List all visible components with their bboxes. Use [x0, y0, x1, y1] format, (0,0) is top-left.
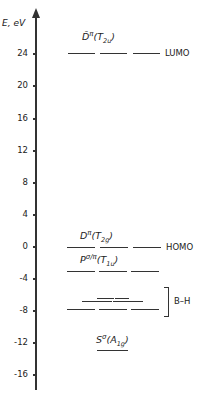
axis-tick-label: 12 — [0, 145, 28, 155]
homo-level-2 — [100, 247, 128, 248]
axis-tick-label: -16 — [0, 369, 28, 379]
homo-sym-close: ) — [109, 230, 113, 241]
axis-tick — [33, 53, 37, 55]
lumo-side-label: LUMO — [165, 48, 190, 58]
lumo-sym-close: ) — [111, 31, 115, 42]
lumo-term-label: D̄π(T2u) — [82, 30, 115, 45]
axis-tick — [33, 214, 37, 216]
s-level — [97, 350, 128, 351]
bh-mid-level-2 — [113, 301, 143, 302]
homo-level-3 — [133, 247, 161, 248]
axis-tick — [33, 246, 37, 248]
energy-axis — [35, 16, 37, 390]
bh-low-level-3 — [131, 309, 159, 310]
homo-side-label: HOMO — [166, 242, 193, 252]
axis-tick — [33, 182, 37, 184]
s-sub: 1g — [117, 340, 125, 348]
homo-level-1 — [67, 247, 95, 248]
axis-tick — [33, 342, 37, 344]
axis-tick-label: 0 — [0, 241, 28, 251]
lumo-level-2 — [100, 53, 127, 54]
bh-bracket — [164, 287, 169, 317]
axis-tick — [33, 310, 37, 312]
s-sym-close: ) — [125, 334, 129, 345]
bh-low-level-1 — [67, 309, 95, 310]
axis-tick-label: 24 — [0, 48, 28, 58]
axis-tick — [33, 374, 37, 376]
lumo-sym-open: (T — [94, 31, 104, 42]
lumo-level-1 — [68, 53, 95, 54]
bh-top-level-2 — [115, 298, 129, 299]
axis-tick-label: -12 — [0, 337, 28, 347]
bh-top-level-1 — [97, 298, 114, 299]
homo-sym-open: (T — [92, 230, 102, 241]
axis-tick-label: -4 — [0, 273, 28, 283]
p-level-1 — [67, 271, 95, 272]
p-sub: 1u — [106, 260, 114, 268]
bh-mid-level-1 — [82, 301, 112, 302]
axis-tick-label: -8 — [0, 305, 28, 315]
axis-tick-label: 8 — [0, 177, 28, 187]
bh-low-level-2 — [99, 309, 127, 310]
bh-side-label: B–H — [174, 296, 190, 306]
axis-tick-label: 16 — [0, 113, 28, 123]
p-level-3 — [131, 271, 159, 272]
p-term-label: Pσ/π(T1u) — [80, 253, 118, 268]
axis-tick — [33, 118, 37, 120]
s-term-label: Sσ(A1g) — [96, 333, 129, 348]
axis-tick-label: 20 — [0, 80, 28, 90]
axis-tick-label: 4 — [0, 209, 28, 219]
homo-term-label: Dπ(T2g) — [80, 229, 113, 244]
p-level-2 — [99, 271, 127, 272]
axis-tick — [33, 85, 37, 87]
lumo-level-3 — [133, 53, 160, 54]
axis-tick — [33, 150, 37, 152]
p-sup: σ/π — [86, 253, 97, 261]
p-sym-close: ) — [115, 254, 119, 265]
axis-label-text: E, eV — [2, 18, 25, 28]
p-sym-open: (T — [97, 254, 107, 265]
axis-tick — [33, 278, 37, 280]
axis-label: E, eV — [2, 18, 25, 28]
s-sym-open: (A — [106, 334, 116, 345]
